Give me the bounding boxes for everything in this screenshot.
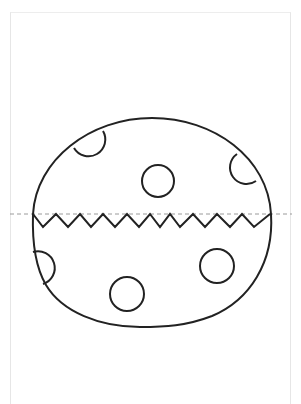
easter-egg-drawing <box>0 0 301 404</box>
top-left-dot-icon <box>74 131 105 156</box>
right-dot-icon <box>230 154 256 184</box>
lower-right-dot-icon <box>200 249 234 283</box>
lower-center-dot-icon <box>110 277 144 311</box>
zigzag-crack-line <box>33 214 270 227</box>
upper-center-dot-icon <box>142 165 174 197</box>
